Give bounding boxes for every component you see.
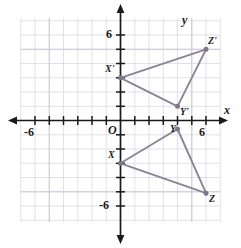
axis-arrowheads (8, 4, 228, 244)
x-axis-label: x (224, 104, 230, 116)
vertex-label-x-prime: X' (105, 64, 114, 74)
vertex-x (118, 161, 123, 166)
x-tick-label-6: 6 (199, 126, 205, 138)
vertex-label-z-prime: Z' (208, 36, 217, 46)
vertex-x-prime (118, 75, 123, 80)
y-axis-label: y (182, 14, 187, 26)
vertex-label-x: X (108, 150, 115, 160)
y-tick-label-6: 6 (106, 28, 112, 40)
coordinate-plane-figure: y x O -6 6 6 -6 X' Y' Z' X Y Z (0, 0, 241, 248)
origin-label: O (108, 124, 117, 136)
vertex-z-prime (204, 47, 209, 52)
vertex-label-y: Y (170, 124, 176, 134)
vertex-label-z: Z (209, 194, 215, 204)
y-tick-label-neg-6: -6 (99, 199, 109, 211)
vertex-z (204, 191, 209, 196)
vertex-label-y-prime: Y' (180, 107, 189, 117)
axes (14, 10, 222, 238)
coordinate-grid-svg (0, 0, 241, 248)
x-tick-label-neg-6: -6 (24, 126, 34, 138)
